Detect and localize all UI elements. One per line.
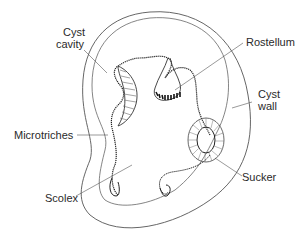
label-cyst-cavity-line1: Cyst [63, 26, 85, 38]
cyst-wall-inner [92, 18, 229, 206]
left-sucker-striations [120, 70, 136, 120]
label-cyst-cavity-line2: cavity [56, 38, 84, 50]
leader-lines [76, 43, 252, 196]
scolex-lower-outline [160, 155, 211, 194]
label-cyst-wall-line2: wall [258, 100, 277, 112]
label-sucker: Sucker [242, 171, 276, 183]
right-sucker [188, 118, 224, 162]
cysticercus-diagram: Cyst cavity Rostellum Cyst wall Microtri… [0, 0, 303, 245]
rostellar-hooks [156, 92, 180, 100]
scolex-left-tail [110, 178, 119, 196]
label-rostellum: Rostellum [246, 36, 295, 48]
label-scolex: Scolex [45, 192, 78, 204]
label-microtriches: Microtriches [14, 129, 73, 141]
label-cyst-wall-line1: Cyst [258, 88, 280, 100]
